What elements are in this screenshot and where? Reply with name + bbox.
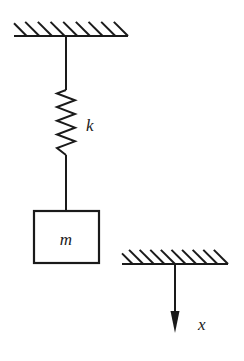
- spring-constant-label: k: [86, 116, 94, 135]
- diagram-canvas: k m x: [0, 0, 244, 361]
- hatch-stroke: [122, 253, 133, 264]
- hatch-stroke: [51, 22, 65, 36]
- coil-spring: [57, 36, 75, 211]
- spring-coil-path: [57, 90, 75, 155]
- hatch-stroke: [14, 23, 27, 36]
- mass-spring-diagram: k m x: [0, 0, 244, 361]
- displacement-arrow-head: [171, 311, 180, 333]
- fixed-support-top: [14, 22, 128, 36]
- hatch-stroke: [114, 22, 128, 36]
- displacement-arrow: [171, 264, 180, 333]
- hatch-stroke: [89, 22, 103, 36]
- hatch-stroke: [101, 22, 115, 36]
- hatch-stroke: [63, 22, 77, 36]
- hatch-stroke: [38, 22, 52, 36]
- mass-label: m: [60, 230, 72, 249]
- fixed-support-right: [122, 250, 228, 264]
- hatch-stroke: [76, 22, 90, 36]
- ceiling-hatch-marks: [14, 22, 128, 36]
- displacement-axis-label: x: [197, 315, 206, 334]
- reference-hatch-marks: [122, 250, 228, 264]
- hatch-stroke: [25, 22, 39, 36]
